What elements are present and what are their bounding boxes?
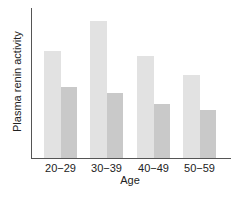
bar-light-2 bbox=[90, 21, 107, 158]
x-axis-label: Age bbox=[110, 174, 150, 186]
bar-light-1 bbox=[44, 51, 61, 158]
bar-dark-1 bbox=[61, 87, 78, 158]
x-tick-label: 20−29 bbox=[38, 162, 84, 174]
bar-dark-2 bbox=[107, 93, 124, 158]
bar-chart: 20−2930−3940−4950−59 Age Plasma renin ac… bbox=[0, 0, 235, 197]
bar-dark-4 bbox=[200, 110, 217, 158]
bar-dark-3 bbox=[154, 104, 171, 158]
bar-light-4 bbox=[183, 75, 200, 158]
x-tick-label: 30−39 bbox=[84, 162, 130, 174]
x-axis-line bbox=[31, 158, 231, 159]
y-axis-label: Plasma renin activity bbox=[11, 31, 23, 132]
bar-light-3 bbox=[137, 56, 154, 158]
x-tick-label: 50−59 bbox=[177, 162, 223, 174]
y-axis-line bbox=[31, 8, 32, 159]
x-tick-label: 40−49 bbox=[131, 162, 177, 174]
